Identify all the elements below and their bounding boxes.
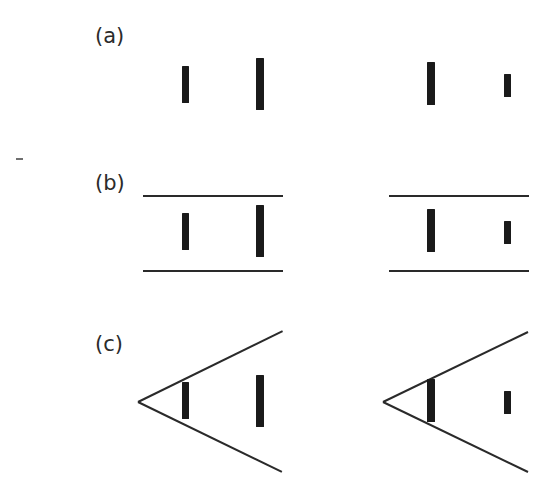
panel-c-right-outer-bar	[504, 391, 511, 414]
panel-c-left-inner-bar	[182, 382, 189, 419]
scan-speck	[16, 158, 23, 160]
panel-b-left-inner-bar	[182, 213, 189, 250]
panel-b-right-inner-bar	[427, 209, 435, 252]
panel-b-right-top-line	[389, 195, 529, 197]
panel-label-b: (b)	[95, 173, 125, 194]
panel-b-right-bottom-line	[389, 270, 529, 272]
panel-label-c: (c)	[95, 334, 123, 355]
panel-label-a: (a)	[95, 26, 124, 47]
panel-b-left-top-line	[143, 195, 283, 197]
panel-a-right-inner-bar	[427, 62, 435, 105]
panel-a-left-outer-bar	[256, 58, 264, 110]
panel-b-right-outer-bar	[504, 221, 511, 244]
illusion-figure: (a) (b) (c)	[0, 0, 551, 491]
panel-a-left-inner-bar	[182, 66, 189, 103]
panel-b-left-outer-bar	[256, 205, 264, 257]
panel-a-right-outer-bar	[504, 74, 511, 97]
panel-b-left-bottom-line	[143, 270, 283, 272]
panel-c-left-outer-bar	[256, 375, 264, 427]
panel-c-right-inner-bar	[427, 379, 435, 422]
